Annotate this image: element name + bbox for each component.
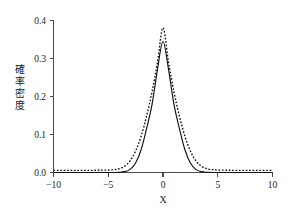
- x-tick-label-2: 0: [161, 180, 166, 190]
- x-tick-label-0: −10: [46, 180, 61, 190]
- chart-figure: 0.0 0.1 0.2 0.3 0.4 −10 −5 0 5 10 X 確 率 …: [0, 0, 290, 210]
- y-axis-title-char-1: 率: [15, 75, 25, 87]
- y-tick-label-3: 0.3: [34, 54, 46, 64]
- x-tick-label-3: 5: [215, 180, 220, 190]
- solid-density-curve: [54, 41, 273, 172]
- dotted-density-curve: [54, 28, 273, 171]
- x-tick-marks: [54, 173, 273, 177]
- plot-svg: 0.0 0.1 0.2 0.3 0.4 −10 −5 0 5 10 X 確 率 …: [0, 0, 290, 210]
- x-tick-label-1: −5: [103, 180, 113, 190]
- y-tick-marks: [50, 21, 54, 173]
- y-tick-label-0: 0.0: [34, 168, 46, 178]
- y-axis-title: 確 率 密 度: [15, 63, 25, 111]
- y-tick-label-1: 0.1: [34, 130, 46, 140]
- y-tick-label-2: 0.2: [34, 92, 46, 102]
- x-tick-label-4: 10: [268, 180, 278, 190]
- y-axis-title-char-2: 密: [15, 87, 25, 99]
- y-axis-title-char-0: 確: [15, 63, 25, 75]
- x-axis-title: X: [159, 194, 167, 205]
- y-tick-label-4: 0.4: [34, 16, 46, 26]
- y-axis-title-char-3: 度: [15, 99, 25, 111]
